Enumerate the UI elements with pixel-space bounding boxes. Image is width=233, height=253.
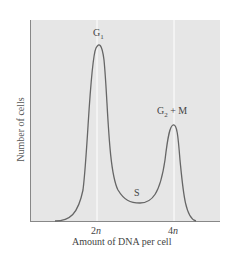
y-axis-label: Number of cells (15, 90, 26, 170)
g1-label: G1 (93, 27, 104, 41)
dna-content-chart (0, 0, 233, 253)
plot-area (30, 20, 220, 221)
x-tick-4n: 4n (168, 225, 178, 236)
g2m-label: G2 + M (157, 105, 187, 119)
x-tick-2n-n: n (96, 225, 101, 236)
s-label: S (134, 187, 140, 198)
x-tick-2n: 2n (91, 225, 101, 236)
x-tick-4n-n: n (173, 225, 178, 236)
s-label-text: S (134, 187, 140, 198)
g1-label-sub: 1 (100, 33, 104, 41)
g2m-label-rest: + M (168, 105, 188, 116)
x-axis-label: Amount of DNA per cell (72, 236, 171, 247)
